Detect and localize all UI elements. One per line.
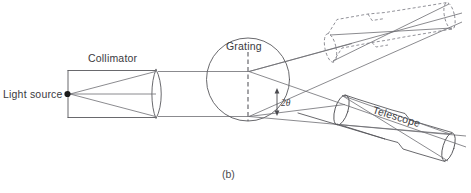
angle-arrow-head-top (275, 88, 280, 94)
figure-container: Light source Collimator Grating 2θ (0, 0, 471, 193)
collimator-ray-lower (70, 94, 156, 117)
telescope-tube-bottom-edge (298, 113, 445, 162)
spectrometer-diagram: Light source Collimator Grating 2θ (0, 0, 471, 193)
figure-caption: (b) (222, 168, 235, 180)
collimator-label: Collimator (88, 52, 138, 64)
telescope-alt-inner-ray-b (333, 4, 449, 61)
diffracted-beam-lower (249, 72, 466, 148)
collimator-ray-upper (70, 72, 156, 95)
light-source-dot (64, 91, 70, 97)
angle-label: 2θ (281, 98, 291, 108)
telescope-inner-ray-a (342, 96, 448, 162)
telescope-label: Telescope (371, 103, 421, 129)
telescope-eyepiece-cap (439, 132, 458, 163)
collimator-group: Light source Collimator (3, 52, 249, 119)
telescope-alt-step-bottom (372, 43, 388, 48)
telescope-group: Telescope (298, 93, 458, 162)
lower-order-ray-a (249, 72, 466, 148)
telescope-alt-step-top (368, 14, 385, 21)
grating-label: Grating (226, 40, 262, 52)
light-source-label: Light source (3, 88, 63, 100)
telescope-alt-objective-lens (322, 33, 339, 64)
telescope-alt-inner-ray-a (330, 28, 452, 35)
